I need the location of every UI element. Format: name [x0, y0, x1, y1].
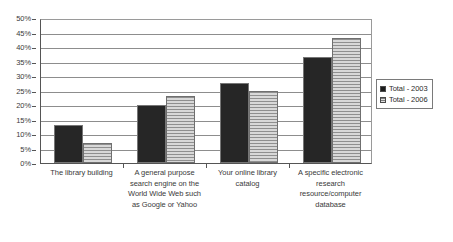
y-tick-label: 40% — [16, 44, 31, 52]
bar-chart: 0%5%10%15%20%25%30%35%40%45%50% The libr… — [0, 0, 453, 242]
bar-group — [303, 20, 361, 163]
bar — [303, 57, 332, 163]
bar — [220, 83, 249, 163]
y-tick-label: 20% — [16, 102, 31, 110]
legend-swatch-icon — [380, 97, 386, 103]
legend-label: Total - 2003 — [389, 84, 428, 93]
bar — [137, 105, 166, 163]
x-tick-mark — [206, 164, 207, 168]
plot-area — [40, 19, 372, 164]
y-tick-label: 30% — [16, 73, 31, 81]
y-tick-mark — [32, 92, 36, 93]
bar — [54, 125, 83, 163]
y-tick-label: 0% — [20, 160, 31, 168]
y-tick-mark — [32, 19, 36, 20]
chart-legend: Total - 2003 Total - 2006 — [376, 79, 433, 109]
legend-item: Total - 2006 — [380, 94, 428, 105]
x-category-label: A general purpose search engine on the W… — [125, 168, 204, 210]
x-axis: The library buildingA general purpose se… — [40, 168, 372, 242]
y-tick-label: 10% — [16, 131, 31, 139]
y-tick-mark — [32, 164, 36, 165]
bar-group — [137, 20, 195, 163]
bars-layer — [41, 20, 371, 163]
legend-item: Total - 2003 — [380, 83, 428, 94]
x-category-label: The library building — [42, 168, 121, 179]
y-tick-label: 45% — [16, 30, 31, 38]
x-tick-mark — [289, 164, 290, 168]
y-tick-label: 25% — [16, 88, 31, 96]
legend-swatch-icon — [380, 86, 386, 92]
y-tick-label: 15% — [16, 117, 31, 125]
bar-group — [220, 20, 278, 163]
x-category-label: Your online library catalog — [208, 168, 287, 189]
y-tick-mark — [32, 106, 36, 107]
legend-label: Total - 2006 — [389, 95, 428, 104]
x-category-label: A specific electronic research resource/… — [291, 168, 370, 210]
y-tick-mark — [32, 121, 36, 122]
y-tick-label: 35% — [16, 59, 31, 67]
x-tick-mark — [123, 164, 124, 168]
y-tick-mark — [32, 48, 36, 49]
y-tick-mark — [32, 150, 36, 151]
y-tick-label: 5% — [20, 146, 31, 154]
y-tick-label: 50% — [16, 15, 31, 23]
y-tick-mark — [32, 63, 36, 64]
bar — [83, 143, 112, 163]
bar-group — [54, 20, 112, 163]
y-tick-mark — [32, 77, 36, 78]
y-tick-mark — [32, 135, 36, 136]
bar — [249, 91, 278, 164]
bar — [166, 96, 195, 163]
bar — [332, 38, 361, 163]
y-axis: 0%5%10%15%20%25%30%35%40%45%50% — [0, 19, 36, 164]
y-tick-mark — [32, 34, 36, 35]
